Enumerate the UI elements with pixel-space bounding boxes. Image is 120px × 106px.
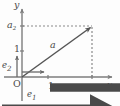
y-tick-label-a2-sub: 2 [13, 25, 16, 31]
y-tick-label-a2: a2 [7, 20, 16, 30]
y-tick-label-a2-base: a [7, 19, 13, 30]
vector-e2-label-sub: 2 [7, 64, 12, 73]
vector-e2-label-text: e2 [2, 61, 12, 72]
vector-e2-overbar-arrow-icon [2, 58, 120, 106]
vector-a-label-text: a [50, 40, 56, 50]
vector-a-label-base: a [50, 39, 56, 50]
y-tick-label-one: 1 [14, 44, 20, 54]
vector-diagram: y x O a2 1 1 a1 a e1 [0, 0, 120, 106]
y-axis-label: y [14, 0, 19, 10]
